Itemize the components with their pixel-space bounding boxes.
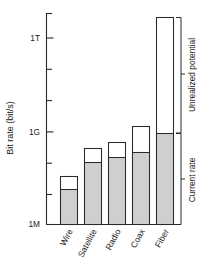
- bar-current-radio: [109, 158, 126, 225]
- y-tick-label-1M: 1M: [28, 219, 40, 229]
- bar-current-satellite: [85, 163, 102, 225]
- annotation-current-rate: Current rate: [187, 157, 197, 202]
- x-label-satellite: Satellite: [76, 227, 99, 259]
- chart-canvas: 1T 1G 1M Bit rate (bit/s): [0, 0, 218, 266]
- x-label-radio: Radio: [103, 227, 122, 252]
- bar-group-satellite: [85, 149, 102, 225]
- y-axis-title: Bit rate (bit/s): [5, 101, 15, 155]
- bar-current-fiber: [157, 134, 174, 225]
- bar-group-radio: [109, 143, 126, 225]
- bar-group-wire: [61, 177, 78, 225]
- bracket-unrealized-potential: [176, 18, 185, 134]
- bit-rate-bar-chart: 1T 1G 1M Bit rate (bit/s): [0, 0, 218, 266]
- y-tick-label-1G: 1G: [29, 127, 40, 137]
- x-label-fiber: Fiber: [153, 227, 171, 249]
- x-label-wire: Wire: [58, 227, 75, 247]
- y-axis-ticks: [47, 38, 54, 225]
- bar-current-wire: [61, 190, 78, 225]
- bar-group-fiber: [157, 18, 174, 225]
- x-label-coax: Coax: [129, 227, 148, 250]
- bar-current-coax: [133, 153, 150, 225]
- bracket-current-rate: [176, 134, 185, 225]
- y-tick-label-1T: 1T: [30, 33, 40, 43]
- bar-group-coax: [133, 127, 150, 225]
- annotation-unrealized-potential: Unrealized potential: [187, 38, 197, 112]
